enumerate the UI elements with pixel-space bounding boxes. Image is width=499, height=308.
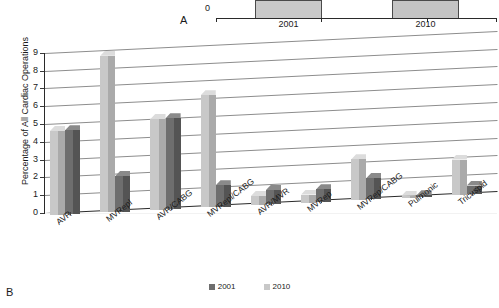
bar-side-face: [159, 119, 166, 210]
legend-swatch: [209, 284, 215, 290]
panel-a-bar-2010: [392, 0, 459, 18]
bar-2001-AVR: [65, 130, 80, 214]
bar-side-face: [73, 130, 80, 214]
bar-2010-MVRep-CABG: [351, 159, 366, 200]
y-tick-label: 7: [28, 83, 38, 92]
bar-front-face: [301, 195, 309, 203]
bar-front-face: [50, 131, 58, 215]
y-tick-label: 0: [28, 208, 38, 217]
bar-front-face: [150, 119, 158, 210]
y-tick-label: 1: [28, 190, 38, 199]
bar-2010-MVRepl-CABG: [201, 95, 216, 207]
legend-item: 2010: [264, 282, 291, 291]
panel-a-label: A: [180, 14, 188, 26]
bar-side-face: [359, 159, 366, 200]
gridline: [45, 31, 497, 54]
panel-a-axis-tick: [216, 19, 217, 22]
panel-a-bar-2001: [255, 0, 322, 18]
bar-front-face: [65, 130, 73, 214]
y-tick-label: 9: [28, 48, 38, 57]
bar-side-face: [209, 95, 216, 207]
bar-front-face: [251, 196, 259, 205]
bar-2010-MVRepl: [100, 56, 115, 213]
y-tick-label: 8: [28, 66, 38, 75]
bar-front-face: [452, 160, 460, 196]
y-tick-label: 2: [28, 172, 38, 181]
bar-2010-AVR: [50, 131, 65, 215]
panel-a-zero-tick-label: 0: [205, 3, 210, 13]
panel-a-axis-tick: [496, 19, 497, 22]
bar-front-face: [100, 56, 108, 213]
legend-item: 2001: [209, 282, 236, 291]
panel-a-category-2010: 2010: [392, 19, 459, 29]
bar-front-face: [201, 95, 209, 207]
chart-legend: 20012010: [0, 282, 499, 291]
bar-side-face: [108, 56, 115, 213]
y-tick-label: 6: [28, 101, 38, 110]
bar-front-face: [166, 118, 174, 209]
panel-a: A 0 2001 2010: [0, 0, 499, 32]
bar-2010-Tricuspid: [452, 160, 467, 196]
y-axis-line: [44, 53, 45, 214]
y-tick-label: 3: [28, 155, 38, 164]
legend-label: 2001: [218, 282, 236, 291]
legend-swatch: [264, 284, 270, 290]
legend-label: 2010: [273, 282, 291, 291]
chart-plot-area: 0123456789AVRMVReplAVR/CABGMVRepl/CABGAV…: [0, 34, 499, 234]
panel-b: Percentage of All Cardiac Operations 012…: [0, 34, 499, 308]
bar-front-face: [351, 159, 359, 200]
panel-b-label: B: [6, 286, 13, 298]
y-tick-label: 5: [28, 119, 38, 128]
panel-a-category-2001: 2001: [255, 19, 322, 29]
bar-side-face: [58, 131, 65, 215]
y-tick-label: 4: [28, 137, 38, 146]
bar-2010-AVR-CABG: [150, 119, 165, 210]
